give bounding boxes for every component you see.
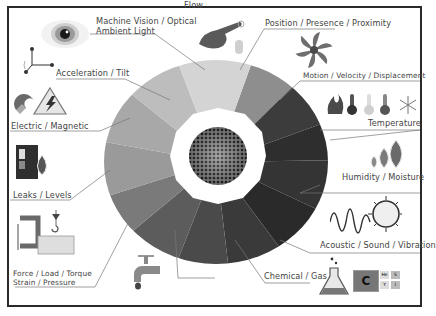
flask-icon	[318, 256, 350, 298]
magnet-high-voltage-icon	[12, 84, 68, 118]
mini-element: He	[380, 271, 389, 279]
pointing-hand-icon	[197, 18, 249, 56]
label-machine-vision: Machine Vision / Optical	[96, 16, 197, 26]
label-acceleration: Acceleration / Tilt	[56, 68, 129, 78]
label-strain: Strain / Pressure	[13, 278, 75, 288]
label-motion: Motion / Velocity / Displacement	[303, 71, 425, 81]
mini-element: Y	[380, 281, 389, 289]
fan-icon	[294, 30, 334, 70]
snowflake-icon	[400, 96, 416, 114]
thermometer-icon	[364, 94, 374, 115]
water-drops-icon	[366, 138, 406, 170]
label-humidity: Humidity / Moisture	[342, 172, 424, 182]
label-position: Position / Presence / Proximity	[265, 18, 391, 28]
label-acoustic: Acoustic / Sound / Vibration	[320, 240, 436, 250]
label-leaks: Leaks / Levels	[13, 190, 72, 200]
mini-element: S	[391, 271, 400, 279]
label-electric: Electric / Magnetic	[11, 121, 89, 131]
mini-periodic-grid: He S Y I	[380, 271, 400, 289]
mini-element: I	[391, 281, 400, 289]
thermometer-icon	[347, 94, 357, 115]
clamp-load-icon	[14, 210, 76, 256]
label-ambient-light: Ambient Light	[96, 26, 155, 36]
barrel-drop-icon	[14, 143, 50, 181]
label-flow: Flow	[184, 0, 203, 10]
label-temperature: Temperature	[368, 118, 421, 128]
periodic-element-icon: C	[353, 270, 379, 292]
faucet-icon	[130, 252, 164, 290]
sound-wave-icon	[330, 192, 402, 236]
axes-icon	[22, 45, 56, 75]
thermometer-icon	[380, 94, 390, 115]
temperature-icons	[326, 92, 422, 116]
flame-icon	[328, 94, 344, 114]
